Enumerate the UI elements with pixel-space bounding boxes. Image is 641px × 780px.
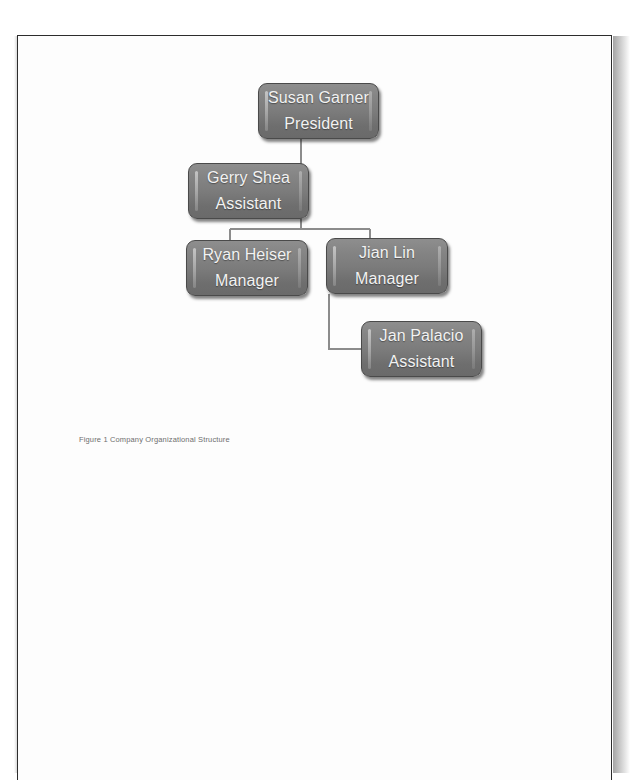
org-node-name: Ryan Heiser	[202, 247, 291, 264]
org-node-name: Jan Palacio	[380, 328, 464, 345]
org-node-assistant-jan-palacio[interactable]: Jan Palacio Assistant	[361, 321, 482, 377]
figure-caption: Figure 1 Company Organizational Structur…	[79, 435, 230, 444]
org-chart-figure: Susan Garner President Gerry Shea Assist…	[18, 36, 613, 436]
org-node-role: Manager	[355, 271, 419, 288]
org-node-role: Assistant	[389, 354, 455, 371]
org-node-president[interactable]: Susan Garner President	[258, 83, 379, 139]
org-node-manager-jian-lin[interactable]: Jian Lin Manager	[326, 238, 448, 294]
document-page: Susan Garner President Gerry Shea Assist…	[17, 35, 612, 780]
org-node-role: President	[284, 116, 353, 133]
org-node-assistant-gerry-shea[interactable]: Gerry Shea Assistant	[188, 163, 309, 219]
connector-manager-2-to-assistant-2	[329, 294, 365, 349]
page-right-edge-shadow	[613, 36, 630, 773]
org-node-name: Susan Garner	[268, 90, 369, 107]
org-node-name: Jian Lin	[359, 245, 415, 262]
org-node-role: Assistant	[216, 196, 282, 213]
org-node-manager-ryan-heiser[interactable]: Ryan Heiser Manager	[186, 240, 308, 296]
org-node-name: Gerry Shea	[207, 170, 290, 187]
org-node-role: Manager	[215, 273, 279, 290]
